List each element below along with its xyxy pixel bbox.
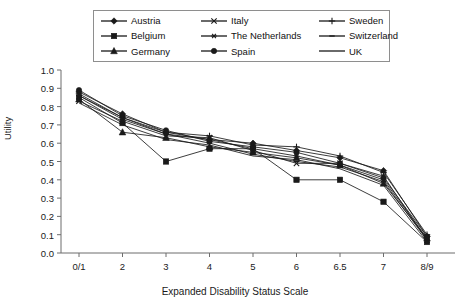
y-tick-label: 1.0: [18, 65, 54, 76]
legend: AustriaItalySwedenBelgiumThe Netherlands…: [93, 10, 390, 62]
asterisk-marker-icon: [200, 30, 228, 42]
legend-item-label: Austria: [131, 16, 161, 26]
x-tick-label: 7: [381, 261, 386, 272]
legend-item-label: Belgium: [131, 31, 165, 41]
legend-item-label: Germany: [131, 47, 170, 57]
y-axis-ticks: [57, 70, 61, 253]
plus-marker-icon: [318, 15, 346, 27]
legend-item-label: Switzerland: [349, 31, 398, 41]
legend-item[interactable]: Italy: [200, 15, 318, 27]
x-tick-label: 3: [163, 261, 168, 272]
y-tick-label: 0.0: [18, 248, 54, 259]
legend-item-label: UK: [349, 47, 362, 57]
legend-item-label: Sweden: [349, 16, 383, 26]
y-tick-label: 0.5: [18, 156, 54, 167]
triangle-marker-icon: [100, 45, 128, 57]
data-series-group: [76, 87, 431, 244]
legend-item[interactable]: The Netherlands: [200, 30, 318, 42]
data-series: [76, 87, 429, 239]
legend-item[interactable]: Austria: [100, 15, 200, 27]
y-tick-label: 0.1: [18, 229, 54, 240]
square-marker-icon: [100, 30, 128, 42]
data-series: [76, 93, 429, 240]
legend-item[interactable]: Germany: [100, 45, 200, 57]
legend-item[interactable]: Sweden: [318, 15, 397, 27]
x-axis-ticks: [79, 253, 427, 257]
circle-marker-icon: [200, 45, 228, 57]
legend-item-label: Spain: [231, 47, 255, 57]
diamond-marker-icon: [100, 15, 128, 27]
chart-figure: Utility Expanded Disability Status Scale…: [0, 0, 470, 308]
y-tick-label: 0.4: [18, 174, 54, 185]
data-series: [76, 89, 430, 240]
legend-item[interactable]: UK: [318, 45, 397, 57]
x-tick-label: 6.5: [333, 261, 346, 272]
axis-spines: [61, 70, 455, 253]
x-tick-label: 6: [294, 261, 299, 272]
legend-item[interactable]: Switzerland: [318, 30, 397, 42]
y-tick-label: 0.7: [18, 119, 54, 130]
data-series: [76, 96, 429, 241]
y-tick-label: 0.9: [18, 83, 54, 94]
x-axis-label: Expanded Disability Status Scale: [0, 286, 470, 297]
legend-item[interactable]: Spain: [200, 45, 318, 57]
x-tick-label: 4: [207, 261, 212, 272]
x-marker-icon: [200, 15, 228, 27]
x-tick-label: 0/1: [72, 261, 85, 272]
y-tick-label: 0.2: [18, 211, 54, 222]
dash-marker-icon: [318, 30, 346, 42]
y-tick-label: 0.6: [18, 138, 54, 149]
legend-item[interactable]: Belgium: [100, 30, 200, 42]
x-tick-label: 2: [120, 261, 125, 272]
x-tick-label: 8/9: [420, 261, 433, 272]
y-axis-label: Utility: [2, 117, 13, 140]
none-marker-icon: [318, 45, 346, 57]
legend-item-label: Italy: [231, 16, 248, 26]
x-tick-label: 5: [250, 261, 255, 272]
y-tick-label: 0.3: [18, 193, 54, 204]
y-tick-label: 0.8: [18, 101, 54, 112]
legend-item-label: The Netherlands: [231, 31, 301, 41]
data-series: [76, 91, 430, 238]
